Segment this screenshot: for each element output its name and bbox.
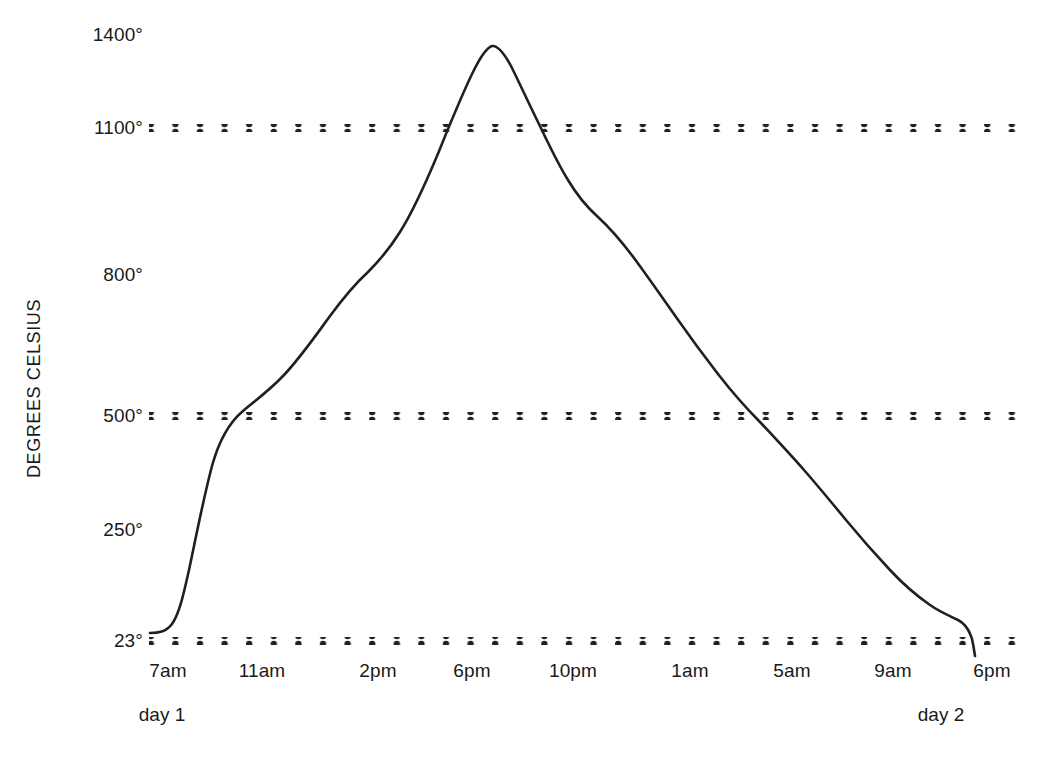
x-tick-label-7am-day1: 7am [118, 660, 218, 682]
y-tick-label-800: 800° [43, 264, 143, 286]
x-tick-label-10pm-day1: 10pm [523, 660, 623, 682]
x-tick-label-11am-day1: 11am [212, 660, 312, 682]
temperature-curve-chart: DEGREES CELSIUS 1400° 1100° 800° 500° 25… [0, 0, 1048, 760]
x-tick-label-6pm-day1: 6pm [422, 660, 522, 682]
y-tick-label-23: 23° [43, 630, 143, 652]
y-tick-label-250: 250° [43, 519, 143, 541]
y-tick-label-1100: 1100° [43, 117, 143, 139]
gridline-23-baseline [149, 637, 1020, 645]
temperature-line [150, 46, 975, 656]
y-tick-label-500: 500° [43, 405, 143, 427]
gridline-500 [149, 412, 1020, 420]
day-label-day-1: day 1 [112, 704, 212, 726]
x-tick-label-5am-day2: 5am [742, 660, 842, 682]
gridline-1100 [149, 124, 1020, 132]
x-tick-label-6pm-day2: 6pm [942, 660, 1042, 682]
y-axis-title-wrapper: DEGREES CELSIUS [0, 0, 40, 760]
y-tick-label-1400: 1400° [43, 24, 143, 46]
x-tick-label-9am-day2: 9am [843, 660, 943, 682]
x-tick-label-2pm-day1: 2pm [328, 660, 428, 682]
x-tick-label-1am-day2: 1am [640, 660, 740, 682]
day-label-day-2: day 2 [891, 704, 991, 726]
y-axis-title: DEGREES CELSIUS [24, 179, 45, 599]
chart-plot-area [0, 0, 1048, 760]
